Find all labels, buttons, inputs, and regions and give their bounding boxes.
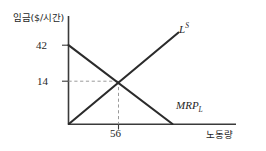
supply-curve-label: LS bbox=[179, 24, 189, 35]
x-axis-title: 노동량 bbox=[206, 130, 232, 140]
ls-supply-curve bbox=[69, 33, 179, 125]
supply-curve-label-superscript: S bbox=[185, 21, 189, 30]
labor-market-diagram: 임금($/시간) 42 14 56 노동량 LS MRPL bbox=[0, 0, 266, 151]
y-tick-label-14: 14 bbox=[37, 76, 48, 87]
demand-curve-label-base: MRP bbox=[176, 99, 199, 111]
demand-curve-label-subscript: L bbox=[199, 105, 203, 114]
demand-curve-label: MRPL bbox=[176, 100, 203, 111]
y-axis-title: 임금($/시간) bbox=[13, 13, 64, 23]
y-tick-label-42: 42 bbox=[36, 40, 47, 51]
x-tick-label-56: 56 bbox=[110, 128, 121, 139]
